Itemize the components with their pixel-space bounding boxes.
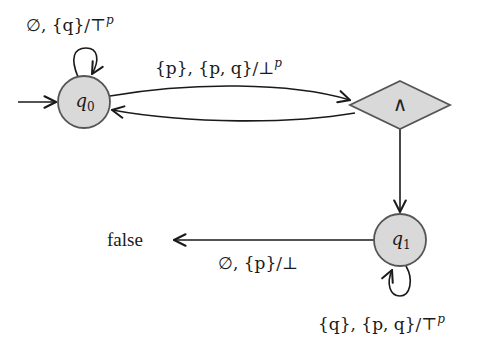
edge-label-sup: p (437, 312, 445, 326)
edge-label-q1-to-false: ∅, {p}/⊥ (218, 255, 298, 272)
edge-label-text: ∅, {q}/⊤ (26, 15, 106, 35)
edge-q1-self-loop (389, 266, 410, 296)
edge-q0-to-and (110, 86, 350, 100)
state-q0-label: q0 (75, 90, 94, 115)
edge-label-text: ∅, {p}/⊥ (218, 253, 298, 273)
automaton-diagram (0, 0, 496, 354)
edge-label-q0-self-loop: ∅, {q}/⊤p (26, 14, 114, 34)
state-subscript: 1 (403, 238, 411, 252)
edge-label-q0-to-and: {p}, {p, q}/⊥p (155, 57, 282, 77)
edge-label-text: {q}, {p, q}/⊤ (318, 314, 437, 334)
state-name: q (391, 228, 403, 249)
edge-label-sup: p (274, 56, 282, 70)
edge-q0-self-loop (74, 48, 97, 77)
edge-and-to-q0 (112, 110, 355, 121)
and-symbol: ∧ (393, 92, 408, 116)
false-sink-label: false (107, 229, 143, 251)
edge-label-text: {p}, {p, q}/⊥ (155, 58, 274, 78)
state-q1-label: q1 (391, 228, 410, 253)
edge-label-q1-self-loop: {q}, {p, q}/⊤p (318, 313, 445, 333)
state-name: q (75, 90, 87, 111)
state-subscript: 0 (87, 100, 95, 114)
edge-label-sup: p (106, 13, 114, 27)
